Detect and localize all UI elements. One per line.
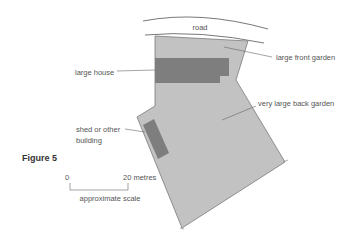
scale-caption: approximate scale: [80, 194, 141, 203]
garden-plan-diagram: road large front garden large house very…: [0, 0, 353, 235]
large-house-shape: [155, 58, 229, 83]
shed-label-line1: shed or other: [76, 125, 121, 134]
scale-start-label: 0: [65, 173, 69, 182]
shed-label-line2: building: [76, 136, 102, 145]
figure-label: Figure 5: [22, 153, 57, 163]
large-house-label: large house: [75, 68, 114, 77]
scale-end-label: 20 metres: [123, 173, 157, 182]
house-leader: [117, 70, 155, 71]
large-front-garden-label: large front garden: [276, 53, 335, 62]
road-label: road: [192, 23, 207, 32]
scale-bar: [70, 183, 128, 190]
very-large-back-garden-label: very large back garden: [258, 99, 334, 108]
